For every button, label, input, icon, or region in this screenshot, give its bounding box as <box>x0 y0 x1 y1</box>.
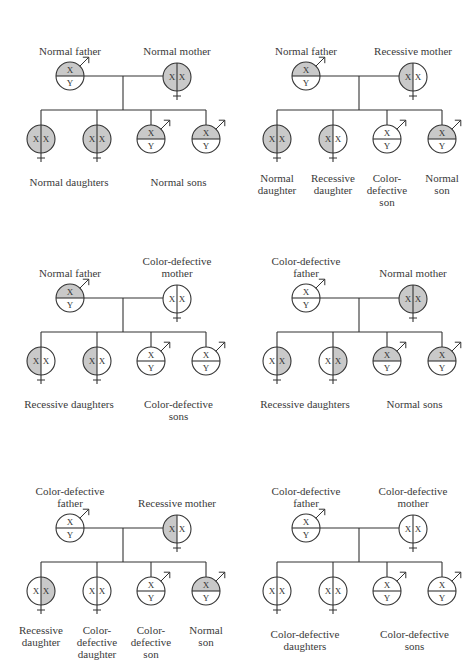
svg-text:X: X <box>269 586 276 596</box>
father-label-line: father <box>272 497 341 509</box>
male-symbol-icon <box>316 57 325 66</box>
svg-text:X: X <box>89 356 96 366</box>
mother-symbol: XX <box>163 285 191 322</box>
father-symbol: XY <box>292 279 325 312</box>
svg-text:Y: Y <box>303 530 310 540</box>
svg-text:Y: Y <box>148 141 155 151</box>
male-symbol-icon <box>397 342 406 351</box>
svg-text:X: X <box>169 294 176 304</box>
daughter-symbol: XX <box>263 125 291 162</box>
offspring-label: Color-defectiveson <box>131 624 171 660</box>
offspring-label: Normalson <box>189 624 223 648</box>
father-label-line: father <box>36 497 105 509</box>
offspring-label-line: Color-defective <box>144 398 213 410</box>
svg-text:Y: Y <box>439 141 446 151</box>
offspring-label-line: daughter <box>258 184 296 196</box>
svg-text:X: X <box>169 72 176 82</box>
offspring-label-line: Normal daughters <box>29 176 108 188</box>
offspring-label-line: defective <box>367 184 407 196</box>
svg-text:X: X <box>415 294 422 304</box>
pedigree-panel-4: XYXXXXXXXYXYColor-defectivefatherNormal … <box>236 222 472 444</box>
offspring-label-line: Normal <box>425 172 459 184</box>
offspring-label-line: Recessive <box>19 624 63 636</box>
svg-text:X: X <box>89 134 96 144</box>
mother-label-line: Color-defective <box>379 485 448 497</box>
mother-symbol: XX <box>399 63 427 100</box>
father-symbol: XY <box>56 279 89 312</box>
father-label: Color-defectivefather <box>272 485 341 509</box>
offspring-label-line: Normal sons <box>387 398 443 410</box>
offspring-label-line: son <box>425 184 459 196</box>
svg-text:Y: Y <box>303 78 310 88</box>
father-symbol: XY <box>292 509 325 542</box>
offspring-label: Normaldaughter <box>258 172 296 196</box>
offspring-label-line: Color-defective <box>271 628 340 640</box>
svg-text:X: X <box>33 586 40 596</box>
son-color-defective: XY <box>373 120 406 153</box>
pedigree-panel-5: XYXXXXXXXYXYColor-defectivefatherRecessi… <box>0 452 236 667</box>
offspring-label-line: defective <box>77 636 117 648</box>
mother-label-line: mother <box>379 497 448 509</box>
mother-symbol: XX <box>399 515 427 552</box>
male-symbol-icon <box>316 509 325 518</box>
svg-text:X: X <box>279 134 286 144</box>
father-label: Normal father <box>275 45 337 57</box>
svg-text:X: X <box>269 356 276 366</box>
mother-label: Recessive mother <box>374 45 452 57</box>
svg-text:Y: Y <box>439 593 446 603</box>
offspring-label-line: Color- <box>367 172 407 184</box>
svg-text:X: X <box>384 350 391 360</box>
svg-text:X: X <box>148 128 155 138</box>
father-label: Color-defectivefather <box>272 255 341 279</box>
daughter-symbol: XX <box>83 577 111 614</box>
offspring-label-line: son <box>189 636 223 648</box>
father-label-line: Color-defective <box>36 485 105 497</box>
daughter-symbol: XX <box>319 347 347 384</box>
offspring-label-line: Color-defective <box>380 628 449 640</box>
son-normal: XY <box>428 120 461 153</box>
pedigree-panel-2: XYXXXXXXXYXYNormal fatherRecessive mothe… <box>236 0 472 222</box>
svg-text:X: X <box>384 580 391 590</box>
father-label-line: father <box>272 267 341 279</box>
mother-symbol: XX <box>163 515 191 552</box>
male-symbol-icon <box>161 342 170 351</box>
male-symbol-icon <box>80 57 89 66</box>
offspring-label: Normal sons <box>387 398 443 410</box>
svg-text:X: X <box>405 72 412 82</box>
svg-text:X: X <box>325 586 332 596</box>
father-label: Color-defectivefather <box>36 485 105 509</box>
mother-label-line: Recessive mother <box>374 45 452 57</box>
offspring-label-line: Normal sons <box>151 176 207 188</box>
offspring-label: Color-defectiveson <box>367 172 407 208</box>
mother-symbol: XX <box>399 285 427 322</box>
svg-text:X: X <box>33 356 40 366</box>
offspring-label: Recessive daughters <box>260 398 350 410</box>
son-color-defective: XY <box>428 572 461 605</box>
father-label-line: Color-defective <box>272 255 341 267</box>
offspring-label-line: son <box>367 196 407 208</box>
father-label-line: Normal father <box>275 45 337 57</box>
svg-text:X: X <box>43 134 50 144</box>
offspring-label-line: Color- <box>131 624 171 636</box>
mother-label: Recessive mother <box>138 497 216 509</box>
svg-text:X: X <box>439 128 446 138</box>
svg-text:X: X <box>405 524 412 534</box>
mother-label: Color-defectivemother <box>143 255 212 279</box>
svg-text:X: X <box>303 517 310 527</box>
offspring-label-line: daughter <box>77 648 117 660</box>
offspring-label: Color-defectivesons <box>380 628 449 652</box>
offspring-label-line: Recessive daughters <box>24 398 114 410</box>
son-normal: XY <box>137 120 170 153</box>
svg-text:Y: Y <box>67 530 74 540</box>
pedigree-lines: XYXXXXXXXYXY <box>0 0 236 222</box>
svg-text:X: X <box>99 356 106 366</box>
svg-text:Y: Y <box>439 363 446 373</box>
daughter-symbol: XX <box>263 577 291 614</box>
male-symbol-icon <box>216 572 225 581</box>
svg-text:X: X <box>99 134 106 144</box>
son-color-defective: XY <box>137 572 170 605</box>
mother-symbol: XX <box>163 63 191 100</box>
svg-text:X: X <box>179 524 186 534</box>
svg-text:Y: Y <box>384 141 391 151</box>
son-normal: XY <box>192 572 225 605</box>
